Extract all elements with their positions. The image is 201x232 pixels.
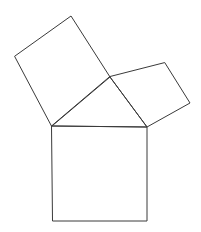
diagram-svg: Pythagorean theorem figure: three square… xyxy=(0,0,201,232)
pythagorean-diagram-canvas: Pythagorean theorem figure: three square… xyxy=(0,0,201,232)
square-on-hypotenuse xyxy=(52,126,147,221)
square-on-short-leg xyxy=(110,63,190,127)
square-on-long-leg xyxy=(15,16,110,126)
right-triangle xyxy=(52,77,147,127)
